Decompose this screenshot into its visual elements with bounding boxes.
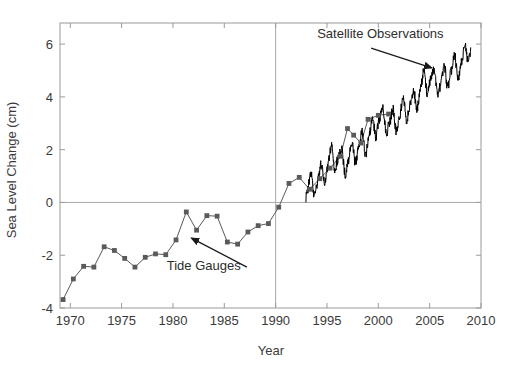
y-tick-label-6: 6 — [46, 37, 53, 52]
data-marker — [133, 265, 138, 270]
data-marker — [266, 221, 271, 226]
data-marker — [143, 255, 148, 260]
x-tick-label-1985: 1985 — [210, 313, 239, 328]
data-marker — [358, 141, 363, 146]
data-marker — [91, 265, 96, 270]
x-axis-label: Year — [258, 343, 285, 358]
data-marker — [317, 176, 322, 181]
tide-gauges-annotation: Tide Gauges — [167, 258, 241, 273]
data-marker — [153, 252, 158, 257]
data-marker — [71, 277, 76, 282]
x-tick-label-2000: 2000 — [364, 313, 393, 328]
x-tick-label-1980: 1980 — [158, 313, 187, 328]
data-marker — [163, 252, 168, 257]
x-tick-label-1990: 1990 — [261, 313, 290, 328]
data-marker — [184, 210, 189, 215]
data-marker — [338, 154, 343, 159]
data-marker — [297, 175, 302, 180]
data-marker — [235, 242, 240, 247]
data-marker — [351, 133, 356, 138]
data-marker — [102, 244, 107, 249]
data-marker — [366, 117, 371, 122]
data-marker — [256, 223, 261, 228]
data-marker — [194, 228, 199, 233]
data-marker — [61, 297, 66, 302]
y-axis-label: Sea Level Change (cm) — [4, 102, 19, 239]
data-marker — [307, 187, 312, 192]
plot-background — [60, 23, 481, 308]
data-marker — [204, 213, 209, 218]
data-marker — [215, 214, 220, 219]
y-tick-label-0: 0 — [46, 195, 53, 210]
chart-canvas: 197019751980198519901995200020052010-4-2… — [0, 0, 517, 365]
y-tick-label--4: -4 — [41, 301, 53, 316]
x-tick-label-2010: 2010 — [467, 313, 496, 328]
data-marker — [112, 248, 117, 253]
data-marker — [225, 240, 230, 245]
y-tick-label-2: 2 — [46, 143, 53, 158]
x-tick-label-1995: 1995 — [313, 313, 342, 328]
data-marker — [287, 181, 292, 186]
data-marker — [376, 113, 381, 118]
data-marker — [81, 264, 86, 269]
data-marker — [328, 166, 333, 171]
data-marker — [345, 126, 350, 131]
satellite-observations-annotation: Satellite Observations — [317, 26, 444, 41]
y-tick-label--2: -2 — [41, 248, 53, 263]
data-marker — [246, 230, 251, 235]
x-tick-label-1975: 1975 — [107, 313, 136, 328]
x-tick-label-1970: 1970 — [56, 313, 85, 328]
data-marker — [174, 238, 179, 243]
data-marker — [122, 256, 127, 261]
sea-level-change-figure: 197019751980198519901995200020052010-4-2… — [0, 0, 517, 365]
x-tick-label-2005: 2005 — [415, 313, 444, 328]
y-tick-label-4: 4 — [46, 90, 53, 105]
data-marker — [276, 205, 281, 210]
data-marker — [386, 112, 391, 117]
